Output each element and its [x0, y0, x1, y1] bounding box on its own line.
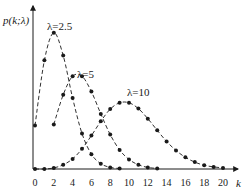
data-point-marker [136, 107, 140, 111]
series-label-lambda-2-5: λ=2.5 [47, 20, 73, 32]
data-point-marker [99, 112, 103, 116]
data-point-marker [71, 157, 75, 161]
data-point-marker [127, 157, 131, 161]
data-point-marker [108, 133, 112, 137]
series-label-lambda-5: λ=5 [77, 68, 95, 80]
x-tick-label: 8 [108, 177, 113, 188]
data-point-marker [127, 101, 131, 105]
data-point-marker [33, 167, 37, 171]
x-tick-label: 2 [51, 177, 56, 188]
x-axis-label: k [236, 177, 242, 189]
x-tick-label: 16 [180, 177, 190, 188]
poisson-chart: p(k;λ) k 02468101214161820 λ=2.5 λ=5 λ=1… [0, 0, 250, 194]
data-point-marker [118, 148, 122, 152]
data-point-marker [89, 152, 93, 156]
data-point-marker [108, 165, 112, 169]
series-label-lambda-10: λ=10 [127, 86, 150, 98]
data-point-marker [89, 134, 93, 138]
data-point-marker [99, 162, 103, 166]
data-point-marker [71, 96, 75, 100]
data-point-marker [108, 107, 112, 111]
x-tick-labels: 02468101214161820 [33, 177, 229, 188]
data-point-marker [118, 101, 122, 105]
data-point-marker [99, 119, 103, 123]
data-point-marker [61, 54, 65, 58]
data-point-marker [146, 117, 150, 121]
data-point-marker [174, 148, 178, 152]
data-point-marker [89, 90, 93, 94]
data-point-marker [155, 166, 159, 170]
data-point-marker [71, 74, 75, 78]
x-tick-label: 10 [124, 177, 134, 188]
data-point-marker [183, 155, 187, 159]
x-tick-label: 6 [89, 177, 94, 188]
data-point-marker [221, 166, 225, 170]
series---2-5 [33, 31, 122, 171]
data-point-marker [33, 124, 37, 128]
data-point-marker [80, 147, 84, 151]
x-tick-label: 12 [143, 177, 153, 188]
data-point-marker [52, 166, 56, 170]
data-point-marker [80, 131, 84, 135]
data-point-marker [61, 163, 65, 167]
y-axis-label: p(k;λ) [2, 14, 29, 27]
x-tick-label: 20 [218, 177, 228, 188]
data-point-marker [136, 163, 140, 167]
data-point-marker [42, 167, 46, 171]
series-line [35, 33, 120, 169]
x-tick-label: 4 [70, 177, 75, 188]
data-point-marker [42, 58, 46, 62]
x-tick-label: 0 [33, 177, 38, 188]
x-tick-label: 18 [199, 177, 209, 188]
data-point-marker [155, 128, 159, 132]
data-point-marker [118, 166, 122, 170]
data-point-marker [212, 165, 216, 169]
data-point-marker [193, 160, 197, 164]
data-point-marker [61, 93, 65, 97]
series-layer [33, 31, 225, 171]
data-point-marker [202, 163, 206, 167]
data-point-marker [52, 122, 56, 126]
data-point-marker [165, 139, 169, 143]
x-tick-label: 14 [162, 177, 172, 188]
data-point-marker [146, 165, 150, 169]
